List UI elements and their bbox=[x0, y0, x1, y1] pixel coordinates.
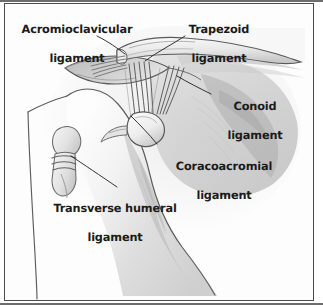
label-transverse-line1: Transverse humeral bbox=[53, 202, 176, 215]
shoulder-ligaments-figure: Acromioclavicular ligament Trapezoid lig… bbox=[0, 0, 323, 308]
label-trapezoid-line2: ligament bbox=[191, 52, 246, 65]
label-coracoacromial-line1: Coracoacromial bbox=[176, 160, 272, 173]
label-transverse-line2: ligament bbox=[87, 231, 142, 244]
label-coracoacromial-line2: ligament bbox=[196, 189, 251, 202]
label-acromioclavicular-ligament: Acromioclavicular ligament bbox=[14, 9, 140, 66]
label-transverse-humeral-ligament: Transverse humeral ligament bbox=[41, 188, 189, 245]
figure-frame: Acromioclavicular ligament Trapezoid lig… bbox=[4, 3, 314, 301]
figure-top-rule bbox=[0, 0, 323, 2]
label-conoid-line2: ligament bbox=[227, 129, 282, 142]
label-trapezoid-ligament: Trapezoid ligament bbox=[171, 9, 267, 66]
label-conoid-ligament: Conoid ligament bbox=[210, 86, 300, 143]
figure-bottom-rule bbox=[0, 303, 323, 305]
label-acromioclavicular-line2: ligament bbox=[49, 52, 104, 65]
label-conoid-line1: Conoid bbox=[234, 100, 277, 113]
label-trapezoid-line1: Trapezoid bbox=[189, 23, 249, 36]
label-acromioclavicular-line1: Acromioclavicular bbox=[22, 23, 133, 36]
